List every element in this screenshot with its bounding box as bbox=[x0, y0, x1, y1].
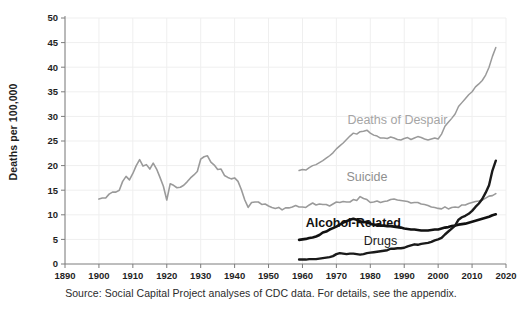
x-axis-ticks: 1890190019101920193019401950196019701980… bbox=[54, 264, 516, 281]
x-tick-label: 1890 bbox=[54, 270, 75, 281]
axes bbox=[65, 16, 506, 264]
x-tick-label: 1940 bbox=[224, 270, 245, 281]
chart-root: Deaths per 100,000 051015202530354045501… bbox=[0, 0, 522, 314]
y-axis-ticks: 05101520253035404550 bbox=[47, 12, 65, 269]
x-tick-label: 2020 bbox=[495, 270, 516, 281]
y-tick-label: 15 bbox=[47, 185, 58, 196]
x-tick-label: 1920 bbox=[156, 270, 177, 281]
source-caption: Source: Social Capital Project analyses … bbox=[0, 287, 522, 299]
x-tick-label: 1960 bbox=[292, 270, 313, 281]
series-label-deaths-of-despair: Deaths of Despair bbox=[347, 113, 447, 127]
x-tick-label: 1980 bbox=[360, 270, 381, 281]
x-tick-label: 2000 bbox=[428, 270, 449, 281]
series-line-drugs bbox=[299, 161, 496, 260]
y-tick-label: 10 bbox=[47, 209, 58, 220]
series-line-deaths-of-despair bbox=[299, 48, 496, 171]
x-tick-label: 1930 bbox=[190, 270, 211, 281]
x-tick-label: 1970 bbox=[326, 270, 347, 281]
series-label-suicide: Suicide bbox=[346, 170, 387, 184]
y-tick-label: 5 bbox=[53, 234, 59, 245]
y-tick-label: 35 bbox=[47, 86, 58, 97]
y-tick-label: 40 bbox=[47, 62, 58, 73]
y-tick-label: 45 bbox=[47, 37, 58, 48]
y-tick-label: 20 bbox=[47, 160, 58, 171]
plot-area: 0510152025303540455018901900191019201930… bbox=[0, 0, 522, 314]
x-tick-label: 1950 bbox=[258, 270, 279, 281]
y-tick-label: 25 bbox=[47, 135, 58, 146]
y-tick-label: 30 bbox=[47, 111, 58, 122]
y-tick-label: 50 bbox=[47, 12, 58, 23]
gridlines bbox=[65, 18, 506, 264]
x-tick-label: 1900 bbox=[88, 270, 109, 281]
x-tick-label: 1910 bbox=[122, 270, 143, 281]
series-label-alcohol-related: Alcohol-Related bbox=[306, 216, 401, 230]
y-tick-label: 0 bbox=[53, 258, 58, 269]
x-tick-label: 2010 bbox=[462, 270, 483, 281]
series-line-suicide bbox=[99, 156, 496, 210]
line-chart-svg: 0510152025303540455018901900191019201930… bbox=[0, 0, 522, 314]
series-label-drugs: Drugs bbox=[364, 234, 397, 248]
x-tick-label: 1990 bbox=[394, 270, 415, 281]
